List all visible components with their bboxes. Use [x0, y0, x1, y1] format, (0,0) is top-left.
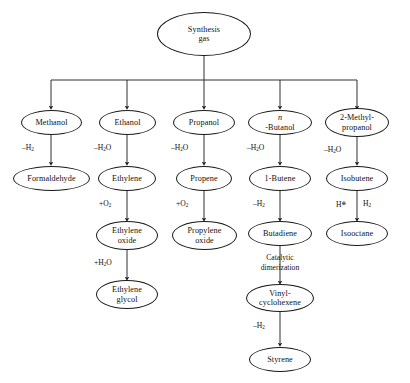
node-2-methylpropanol-line2: propanol [342, 123, 372, 132]
node-2-methylpropanol-line1: 2-Methyl- [340, 113, 374, 122]
edge-label-catalytic-dimerization: Catalytic dimerization [238, 253, 322, 272]
node-isobutene: Isobutene [326, 166, 388, 191]
node-isobutene-label: Isobutene [341, 174, 374, 183]
node-formaldehyde-label: Formaldehyde [27, 174, 76, 183]
node-propanol-label: Propanol [189, 118, 219, 127]
n-butanol-rest: -Butanol [265, 123, 294, 132]
node-1-butene: 1-Butene [249, 166, 311, 191]
connector-lines [0, 0, 410, 383]
edge-label-base: –H [324, 145, 333, 154]
edge-label-sub: 2 [109, 202, 112, 208]
node-propanol: Propanol [173, 110, 235, 135]
edge-label-propene-plus-o2: +O2 [176, 200, 188, 210]
node-isooctane: Isooctane [326, 221, 388, 246]
node-methanol: Methanol [21, 110, 82, 135]
edge-label-sub: 2 [31, 146, 34, 152]
node-vinylcyclohexene-line2: cyclohexene [259, 298, 301, 307]
edge-label-base: –H [94, 143, 103, 152]
n-butanol-italic-prefix: n [278, 113, 282, 122]
edge-label-ethylene-oxide-plus-h2o: +H2O [94, 259, 112, 269]
edge-label-ethanol-minus-h2o: –H2O [94, 144, 111, 154]
edge-label-butene-minus-h2: –H2 [253, 200, 265, 210]
edge-label-sub: 2 [262, 202, 265, 208]
edge-label-base: –H [171, 143, 180, 152]
node-ethylene-oxide-line2: oxide [118, 236, 137, 245]
edge-label-sub: 2 [262, 324, 265, 330]
node-methanol-label: Methanol [35, 118, 67, 127]
edge-label-tail: O [106, 143, 111, 152]
synthesis-flowchart: Synthesis gas Methanol Ethanol Propanol … [0, 0, 410, 383]
edge-label-base: –H [253, 199, 262, 208]
node-butadiene: Butadiene [248, 221, 312, 246]
edge-label-tail: O [106, 258, 111, 267]
node-propene-label: Propene [190, 174, 218, 183]
edge-label-isobutene-h2: H2 [363, 200, 371, 210]
edge-label-vinylcyclohexene-minus-h2: –H2 [253, 322, 265, 332]
node-ethylene-oxide-line1: Ethylene [112, 226, 142, 235]
edge-label-methanol-minus-h2: –H2 [22, 144, 34, 154]
edge-label-ethylene-plus-o2: +O2 [99, 200, 111, 210]
edge-label-sub: 2 [186, 202, 189, 208]
node-ethylene: Ethylene [98, 166, 156, 191]
node-propylene-oxide-line1: Propylene [187, 226, 221, 235]
node-2-methylpropanol: 2-Methyl- propanol [325, 108, 389, 137]
edge-label-base: –H [253, 321, 262, 330]
edge-label-sup: ⊕ [341, 200, 346, 206]
node-synthesis-gas: Synthesis gas [157, 12, 251, 56]
edge-label-tail: O [183, 143, 188, 152]
node-ethylene-glycol: Ethylene glycol [96, 280, 158, 309]
catalytic-dimerization-line1: Catalytic [238, 253, 322, 263]
node-synthesis-gas-line2: gas [198, 34, 209, 43]
node-propylene-oxide-line2: oxide [195, 236, 214, 245]
edge-label-propanol-minus-h2o: –H2O [171, 144, 188, 154]
edge-label-base: +H [94, 258, 104, 267]
node-styrene-label: Styrene [267, 355, 293, 364]
node-isooctane-label: Isooctane [341, 229, 373, 238]
node-formaldehyde: Formaldehyde [13, 166, 90, 191]
edge-label-isobutene-h-cation: H⊕ [336, 199, 346, 210]
edge-label-base: +O [176, 199, 186, 208]
node-synthesis-gas-line1: Synthesis [188, 25, 220, 34]
node-ethanol-label: Ethanol [114, 118, 140, 127]
node-1-butene-label: 1-Butene [265, 174, 296, 183]
node-propene: Propene [176, 166, 232, 191]
node-ethanol: Ethanol [99, 110, 156, 135]
edge-label-base: –H [22, 143, 31, 152]
node-ethylene-oxide: Ethylene oxide [96, 221, 158, 250]
node-n-butanol-label: n-Butanol [265, 113, 294, 132]
edge-label-base: +O [99, 199, 109, 208]
edge-label-methylpropanol-minus-h2o: –H2O [324, 146, 341, 156]
node-ethylene-glycol-line2: glycol [116, 295, 137, 304]
edge-label-butanol-minus-h2o: –H2O [247, 144, 264, 154]
edge-label-base: –H [247, 143, 256, 152]
node-ethylene-label: Ethylene [112, 174, 142, 183]
edge-label-sub: 2 [368, 202, 371, 208]
edge-label-tail: O [336, 145, 341, 154]
node-vinylcyclohexene-line1: Vinyl- [269, 289, 290, 298]
node-vinylcyclohexene: Vinyl- cyclohexene [246, 284, 314, 312]
node-propylene-oxide: Propylene oxide [172, 221, 237, 250]
catalytic-dimerization-line2: dimerization [238, 263, 322, 273]
node-styrene: Styrene [249, 347, 311, 372]
edge-label-tail: O [259, 143, 264, 152]
node-n-butanol: n-Butanol [248, 110, 312, 135]
node-ethylene-glycol-line1: Ethylene [112, 285, 142, 294]
node-butadiene-label: Butadiene [263, 229, 297, 238]
